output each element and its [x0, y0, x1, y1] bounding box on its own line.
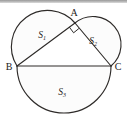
- vertex-label-A: A: [70, 7, 78, 18]
- geometry-figure: A B C S1 S2 S3: [0, 0, 127, 119]
- vertex-label-C: C: [115, 61, 122, 72]
- region-label-S3-subscript: 3: [62, 92, 66, 98]
- semicircle-S2-fill: [75, 16, 121, 66]
- figure-canvas: A B C S1 S2 S3: [0, 0, 127, 119]
- vertex-label-B: B: [6, 61, 13, 72]
- right-angle-marker-icon: [69, 27, 79, 33]
- region-label-S2-subscript: 2: [94, 41, 97, 47]
- semicircle-S3-fill: [17, 66, 111, 113]
- region-label-S1-subscript: 1: [43, 35, 46, 41]
